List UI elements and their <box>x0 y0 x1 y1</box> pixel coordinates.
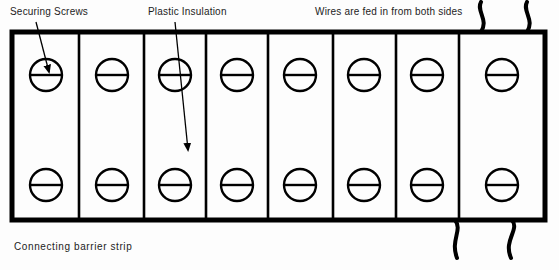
wire-group-bottom <box>455 220 514 258</box>
wire-bottom-1 <box>455 220 458 258</box>
wire-bottom-2 <box>509 220 514 258</box>
wire-top-1 <box>480 2 484 32</box>
wire-group-top <box>480 2 530 32</box>
barrier-strip-drawing <box>0 0 559 270</box>
wire-top-2 <box>526 2 530 32</box>
strip-body <box>12 32 545 220</box>
figure-barrier-strip: Securing Screws Plastic Insulation Wires… <box>0 0 559 270</box>
